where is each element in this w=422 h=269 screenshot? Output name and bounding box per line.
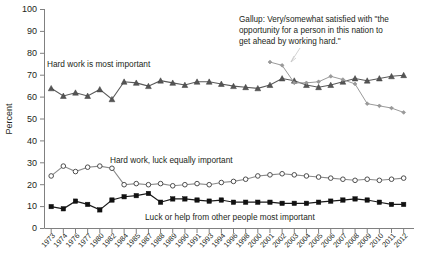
data-point-marker bbox=[268, 200, 272, 204]
data-point-marker bbox=[341, 177, 346, 182]
data-point-marker bbox=[171, 197, 175, 201]
y-tick-label: 90 bbox=[27, 26, 37, 36]
series-2 bbox=[49, 164, 406, 188]
data-point-marker bbox=[110, 198, 114, 202]
data-point-marker bbox=[183, 182, 188, 187]
y-tick-label: 10 bbox=[27, 201, 37, 211]
data-point-marker bbox=[304, 174, 309, 179]
data-point-marker bbox=[219, 198, 223, 202]
gallup-leader-line bbox=[291, 48, 300, 62]
data-point-marker bbox=[195, 181, 200, 186]
data-point-marker bbox=[134, 181, 139, 186]
data-point-marker bbox=[353, 178, 358, 183]
label-hardwork: Hard work is most important bbox=[47, 59, 151, 69]
data-point-marker bbox=[268, 173, 273, 178]
data-point-marker bbox=[207, 182, 212, 187]
data-point-marker bbox=[401, 176, 406, 181]
data-point-marker bbox=[207, 199, 211, 203]
data-point-marker bbox=[61, 207, 65, 211]
data-series-layer bbox=[48, 60, 406, 212]
data-point-marker bbox=[158, 78, 164, 83]
data-point-marker bbox=[243, 200, 247, 204]
data-point-marker bbox=[377, 200, 381, 204]
data-point-marker bbox=[341, 198, 345, 202]
data-point-marker bbox=[365, 198, 369, 202]
data-point-marker bbox=[122, 195, 126, 199]
data-point-marker bbox=[219, 180, 224, 185]
data-point-marker bbox=[134, 193, 138, 197]
data-point-marker bbox=[85, 202, 89, 206]
x-axis-ticks bbox=[51, 229, 403, 234]
data-point-marker bbox=[73, 169, 78, 174]
data-point-marker bbox=[73, 90, 79, 95]
data-point-marker bbox=[390, 106, 394, 110]
data-point-marker bbox=[49, 204, 53, 208]
data-point-marker bbox=[402, 111, 406, 115]
data-point-marker bbox=[110, 166, 115, 171]
data-point-marker bbox=[122, 182, 127, 187]
data-point-marker bbox=[170, 183, 175, 188]
data-point-marker bbox=[389, 202, 393, 206]
data-point-marker bbox=[231, 179, 236, 184]
data-point-marker bbox=[61, 164, 66, 169]
data-point-marker bbox=[279, 76, 285, 81]
data-point-marker bbox=[158, 181, 163, 186]
series-1 bbox=[48, 72, 406, 101]
data-point-marker bbox=[353, 197, 357, 201]
y-tick-label: 100 bbox=[22, 4, 37, 14]
y-tick-label: 0 bbox=[32, 223, 37, 233]
data-point-marker bbox=[256, 200, 260, 204]
data-point-marker bbox=[73, 199, 77, 203]
data-point-marker bbox=[352, 76, 358, 81]
data-point-marker bbox=[267, 82, 273, 87]
data-point-marker bbox=[268, 60, 272, 64]
x-tick-label: 2012 bbox=[392, 231, 410, 249]
data-point-marker bbox=[49, 174, 54, 179]
x-axis-tick-labels: 1973197419761977198019821984198519871988… bbox=[39, 231, 409, 249]
series-path bbox=[51, 193, 403, 209]
label-equal: Hard work, luck equally important bbox=[110, 155, 233, 165]
data-point-marker bbox=[329, 74, 333, 78]
data-point-marker bbox=[98, 164, 103, 169]
y-axis-group: 0102030405060708090100 Percent bbox=[4, 4, 45, 233]
data-point-marker bbox=[377, 178, 382, 183]
series-path bbox=[51, 166, 403, 186]
y-tick-label: 60 bbox=[27, 92, 37, 102]
data-point-marker bbox=[328, 176, 333, 181]
data-point-marker bbox=[401, 202, 405, 206]
label-gallup-line1: Gallup: Very/somewhat satisfied with "th… bbox=[239, 15, 389, 24]
data-point-marker bbox=[98, 208, 102, 212]
data-point-marker bbox=[146, 191, 150, 195]
data-point-marker bbox=[280, 171, 285, 176]
data-point-marker bbox=[377, 104, 381, 108]
y-tick-label: 20 bbox=[27, 180, 37, 190]
data-point-marker bbox=[292, 173, 297, 178]
data-point-marker bbox=[316, 200, 320, 204]
y-tick-label: 50 bbox=[27, 114, 37, 124]
label-luck: Luck or help from other people most impo… bbox=[145, 212, 315, 222]
y-axis-title: Percent bbox=[4, 103, 14, 135]
data-point-marker bbox=[317, 80, 321, 84]
series-4 bbox=[268, 60, 406, 114]
y-tick-label: 40 bbox=[27, 136, 37, 146]
data-point-marker bbox=[389, 177, 394, 182]
chart-container: 0102030405060708090100 Percent 197319741… bbox=[0, 0, 422, 269]
data-point-marker bbox=[48, 85, 54, 90]
data-point-marker bbox=[183, 197, 187, 201]
label-gallup-line3: get ahead by working hard." bbox=[239, 37, 341, 46]
data-point-marker bbox=[329, 199, 333, 203]
data-point-marker bbox=[195, 198, 199, 202]
percent-trend-line-chart: 0102030405060708090100 Percent 197319741… bbox=[0, 0, 422, 269]
series-path bbox=[51, 75, 403, 99]
data-point-marker bbox=[256, 174, 261, 179]
series-3 bbox=[49, 191, 406, 212]
data-point-marker bbox=[231, 200, 235, 204]
y-tick-label: 30 bbox=[27, 158, 37, 168]
data-point-marker bbox=[85, 165, 90, 170]
y-tick-label: 80 bbox=[27, 48, 37, 58]
data-point-marker bbox=[292, 201, 296, 205]
annotation-layer: Hard work is most important Hard work, l… bbox=[47, 15, 389, 222]
data-point-marker bbox=[97, 87, 103, 92]
data-point-marker bbox=[158, 200, 162, 204]
data-point-marker bbox=[243, 177, 248, 182]
